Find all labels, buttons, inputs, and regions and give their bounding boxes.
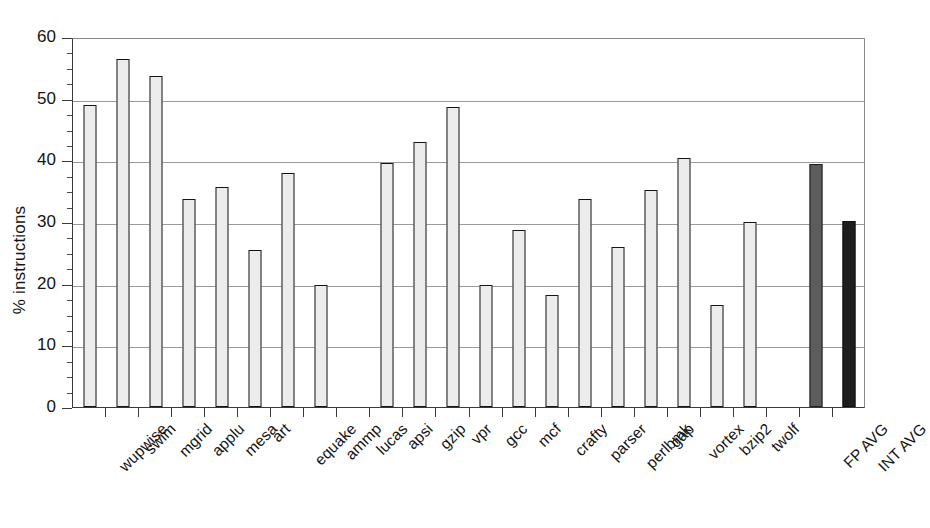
y-tick-mark [62,346,72,347]
x-tick-label: mgrid [175,420,215,460]
y-tick-mark [62,161,72,162]
y-tick-mark [62,285,72,286]
bar [744,222,757,407]
y-tick-label: 50 [37,89,56,109]
x-tick-mark [700,408,701,417]
y-tick-label: 40 [37,150,56,170]
bar-slot [337,39,370,407]
bar-slot [470,39,503,407]
bar [281,173,294,407]
x-tick-mark [766,408,767,417]
bar [314,285,327,407]
x-tick-mark [832,408,833,417]
bar-slot [304,39,337,407]
bar-slot [602,39,635,407]
bar [116,59,129,407]
y-tick-mark [62,100,72,101]
bar-slot [271,39,304,407]
x-tick-mark [601,408,602,417]
x-tick-mark [733,408,734,417]
x-tick-mark [568,408,569,417]
bar-slot [370,39,403,407]
bar [182,199,195,407]
bar-slot [569,39,602,407]
bar-slot [503,39,536,407]
bar-slot [635,39,668,407]
x-tick-mark [270,408,271,417]
x-tick-mark [402,408,403,417]
y-tick-label: 30 [37,212,56,232]
bar-slot [436,39,469,407]
bar [513,230,526,407]
bar-slot [833,39,866,407]
bar-series [73,39,864,407]
bar [446,107,459,407]
x-tick-mark [502,408,503,417]
y-tick-label: 0 [47,397,56,417]
bar [711,305,724,407]
y-tick-label: 60 [37,27,56,47]
y-tick-mark [62,38,72,39]
bar [480,285,493,407]
bar [380,163,393,407]
bar-slot [536,39,569,407]
x-tick-label: gzip [436,420,469,453]
y-axis-title: % instructions [10,0,34,150]
x-tick-mark [336,408,337,417]
bar-slot [403,39,436,407]
bar [810,164,823,407]
y-tick-label: 10 [37,335,56,355]
bar-slot [238,39,271,407]
bar [413,142,426,407]
x-tick-mark [237,408,238,417]
x-tick-label: applu [208,420,248,460]
bar-slot [767,39,800,407]
x-tick-label: apsi [403,420,436,453]
x-tick-mark [535,408,536,417]
x-tick-label: crafty [571,420,611,460]
bar [215,187,228,407]
bar [149,76,162,407]
bar [843,221,856,407]
x-tick-label: mcf [534,420,565,451]
bar-slot [73,39,106,407]
bar [612,247,625,407]
bar-slot [205,39,238,407]
bar-slot [668,39,701,407]
bar [645,190,658,407]
x-tick-mark [469,408,470,417]
x-tick-mark [303,408,304,417]
x-tick-label: gcc [501,420,531,450]
x-tick-mark [204,408,205,417]
bar-slot [139,39,172,407]
x-tick-mark [105,408,106,417]
bar [248,250,261,407]
bar-slot [172,39,205,407]
y-tick-mark [62,408,72,409]
bar [546,295,559,407]
y-tick-mark [62,223,72,224]
x-tick-mark [171,408,172,417]
bar [83,105,96,407]
bar-slot [800,39,833,407]
x-tick-mark [138,408,139,417]
x-tick-label: twolf [768,420,804,456]
bar [579,199,592,407]
bar-slot [701,39,734,407]
bar-slot [734,39,767,407]
bar-slot [106,39,139,407]
x-tick-mark [667,408,668,417]
x-tick-label: vpr [467,420,495,448]
x-tick-mark [634,408,635,417]
x-tick-mark [369,408,370,417]
plot-area [72,38,865,408]
x-tick-mark [799,408,800,417]
x-tick-mark [435,408,436,417]
y-tick-label: 20 [37,274,56,294]
bar [678,158,691,407]
y-axis-title-text: % instructions [10,150,30,370]
